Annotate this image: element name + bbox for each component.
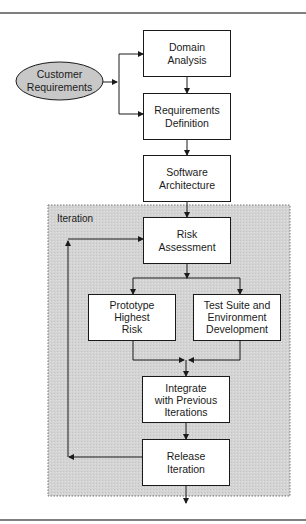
node-release-iteration: Release Iteration xyxy=(143,440,230,486)
node-label: Environment xyxy=(208,311,267,323)
node-label: with Previous xyxy=(154,394,217,406)
node-label: Analysis xyxy=(167,54,206,66)
node-label: Highest xyxy=(114,311,150,323)
node-label: Requirements xyxy=(27,81,92,93)
node-label: Assessment xyxy=(158,241,215,253)
flowchart-canvas: Iteration Customer Requirements Domain A… xyxy=(0,0,306,524)
node-label: Architecture xyxy=(159,179,215,191)
node-risk-assessment: Risk Assessment xyxy=(144,218,231,264)
node-integrate: Integrate with Previous Iterations xyxy=(143,377,230,423)
node-label: Development xyxy=(206,323,268,335)
node-software-architecture: Software Architecture xyxy=(144,156,231,202)
iteration-label: Iteration xyxy=(57,213,93,224)
node-customer-requirements: Customer Requirements xyxy=(16,62,103,100)
node-label: Prototype xyxy=(110,299,155,311)
node-domain-analysis: Domain Analysis xyxy=(144,31,231,77)
node-requirements-definition: Requirements Definition xyxy=(144,94,231,140)
node-prototype-highest-risk: Prototype Highest Risk xyxy=(89,295,176,341)
node-label: Definition xyxy=(165,117,209,129)
node-label: Release xyxy=(167,450,206,462)
node-label: Iterations xyxy=(164,406,207,418)
node-label: Software xyxy=(166,166,208,178)
node-label: Risk xyxy=(122,323,143,335)
node-label: Risk xyxy=(177,228,198,240)
node-label: Iteration xyxy=(167,463,205,475)
node-label: Domain xyxy=(169,41,205,53)
node-label: Customer xyxy=(37,68,83,80)
node-label: Integrate xyxy=(165,382,207,394)
node-label: Requirements xyxy=(154,104,219,116)
node-label: Test Suite and xyxy=(204,299,271,311)
node-test-suite: Test Suite and Environment Development xyxy=(194,295,281,341)
